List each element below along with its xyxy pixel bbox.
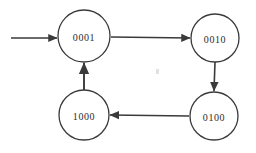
edge-0010-to-0100 <box>214 62 215 91</box>
state-diagram-canvas: 0001 0010 0100 1000 <box>0 0 256 153</box>
state-label-0010: 0010 <box>204 34 226 45</box>
state-node-1000[interactable]: 1000 <box>59 90 109 140</box>
state-label-0100: 0100 <box>203 112 225 123</box>
state-label-1000: 1000 <box>73 111 95 122</box>
state-node-0001[interactable]: 0001 <box>58 10 110 62</box>
scan-speck-artifact <box>156 69 159 74</box>
edge-0100-to-1000 <box>110 115 189 116</box>
state-node-0100[interactable]: 0100 <box>190 92 238 140</box>
state-diagram: 0001 0010 0100 1000 <box>0 0 256 153</box>
edge-0001-to-0010 <box>111 37 190 38</box>
edges-group <box>11 37 215 116</box>
state-node-0010[interactable]: 0010 <box>191 14 239 62</box>
nodes-group: 0001 0010 0100 1000 <box>58 10 239 140</box>
state-label-0001: 0001 <box>73 32 95 43</box>
